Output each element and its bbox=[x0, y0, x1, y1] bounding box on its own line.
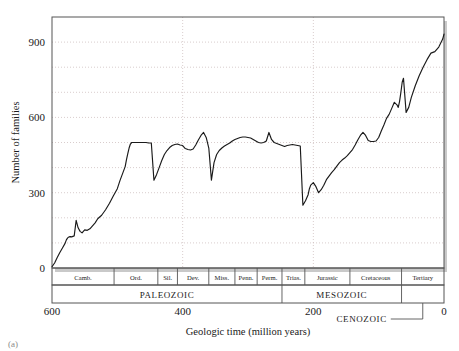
period-label: Ord. bbox=[130, 274, 142, 281]
period-label: Dev. bbox=[187, 274, 200, 281]
cenozoic-callout: CENOZOIC bbox=[336, 303, 422, 324]
period-label: Miss. bbox=[215, 274, 230, 281]
period-label: Trias. bbox=[286, 274, 301, 281]
x-tick-label: 0 bbox=[441, 305, 447, 317]
x-tick-label: 200 bbox=[305, 305, 322, 317]
period-label: Sil. bbox=[163, 274, 172, 281]
y-tick-label: 600 bbox=[29, 111, 46, 123]
x-axis-title: Geologic time (million years) bbox=[186, 326, 311, 338]
period-label: Camb. bbox=[74, 274, 92, 281]
x-tick-label: 600 bbox=[44, 305, 61, 317]
figure-corner-mark: (a) bbox=[8, 339, 18, 349]
y-tick-label: 0 bbox=[40, 262, 46, 274]
y-tick-label: 300 bbox=[29, 187, 46, 199]
period-label: Perm. bbox=[262, 274, 278, 281]
x-tick-label: 400 bbox=[174, 305, 191, 317]
y-axis-title: Number of families bbox=[10, 101, 21, 183]
era-label: MESOZOIC bbox=[316, 290, 367, 300]
period-label: Tertiary bbox=[412, 274, 433, 281]
era-band-frame bbox=[52, 285, 444, 303]
geologic-diversity-chart: 0300600900 6004002000 Camb.Ord.Sil.Dev.M… bbox=[0, 0, 459, 351]
era-band: PALEOZOICMESOZOIC bbox=[52, 285, 444, 303]
y-tick-label: 900 bbox=[29, 36, 46, 48]
cenozoic-label: CENOZOIC bbox=[336, 314, 386, 324]
period-label: Penn. bbox=[239, 274, 254, 281]
y-axis-ticks: 0300600900 bbox=[29, 36, 46, 274]
era-label: PALEOZOIC bbox=[140, 290, 195, 300]
period-label: Cretaceous bbox=[361, 274, 391, 281]
period-label: Jurassic bbox=[317, 274, 338, 281]
figure-container: 0300600900 6004002000 Camb.Ord.Sil.Dev.M… bbox=[0, 0, 459, 351]
